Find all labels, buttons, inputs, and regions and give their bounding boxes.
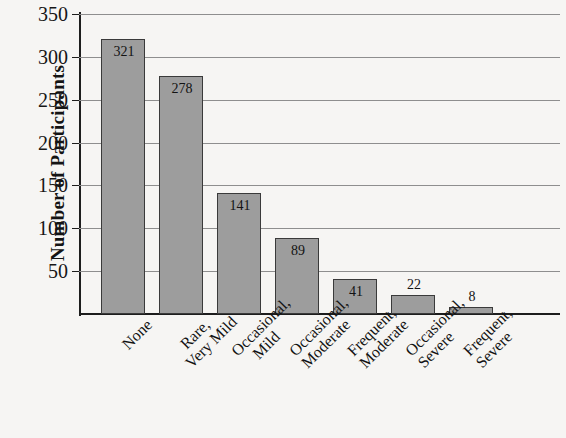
- bar-group: 278: [159, 14, 203, 314]
- bar-group: 8: [449, 14, 493, 314]
- y-axis-tick-label: 300: [38, 45, 68, 68]
- bar-group: 89: [275, 14, 319, 314]
- bar-value-label: 89: [276, 243, 320, 259]
- x-axis-tick-label: Occasional,Moderate: [286, 316, 341, 371]
- y-axis-tick: [72, 143, 79, 144]
- bar-group: 41: [333, 14, 377, 314]
- bar: 22: [391, 295, 435, 314]
- y-axis-tick: [72, 228, 79, 229]
- x-axis-label-line: None: [112, 316, 155, 359]
- bar-group: 22: [391, 14, 435, 314]
- y-axis-tick-label: 50: [48, 260, 68, 283]
- y-axis-tick-label: 200: [38, 131, 68, 154]
- y-axis-tick: [72, 185, 79, 186]
- plot-area: 50100150200250300350 3212781418941228: [79, 14, 560, 314]
- x-axis-tick-label: Frequent,Severe: [460, 316, 515, 371]
- x-axis-tick-label: Occasional,Severe: [402, 316, 457, 371]
- x-axis-labels: NoneRare,Very MildOccasional,MildOccasio…: [79, 316, 560, 438]
- bar: 278: [159, 76, 203, 314]
- bar-series: 3212781418941228: [79, 14, 560, 314]
- y-axis-tick: [72, 100, 79, 101]
- x-axis-tick-label: Frequent,Moderate: [344, 316, 399, 371]
- bar: 321: [101, 39, 145, 314]
- bar-value-label: 278: [160, 81, 204, 97]
- y-axis-tick-label: 150: [38, 174, 68, 197]
- bar-value-label: 321: [102, 44, 146, 60]
- y-axis-tick-label: 350: [38, 3, 68, 26]
- y-axis-tick-label: 100: [38, 217, 68, 240]
- y-axis-tick-label: 250: [38, 88, 68, 111]
- bar-value-label: 141: [218, 198, 262, 214]
- y-axis-tick: [72, 57, 79, 58]
- bar-group: 141: [217, 14, 261, 314]
- bar-group: 321: [101, 14, 145, 314]
- y-axis-tick: [72, 14, 79, 15]
- x-axis-tick-label: None: [112, 316, 155, 359]
- bar: 141: [217, 193, 261, 314]
- x-axis-tick-label: Rare,Very Mild: [170, 316, 225, 371]
- y-axis-tick: [72, 271, 79, 272]
- bar-value-label: 22: [392, 277, 436, 293]
- bar-chart: Number of Participants 50100150200250300…: [0, 0, 566, 438]
